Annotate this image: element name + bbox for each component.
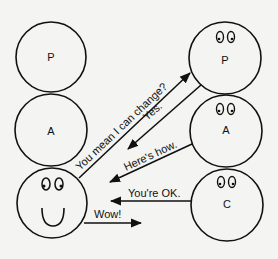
eyes-icon: [218, 177, 236, 188]
transaction-youre-ok: You're OK.: [111, 187, 192, 201]
ta-diagram: P A P A: [0, 0, 278, 259]
left-parent-label: P: [47, 51, 54, 63]
eyes-icon: [42, 178, 63, 190]
left-parent-circle: P: [16, 22, 86, 92]
smile-icon: [42, 208, 64, 226]
transaction-label: You're OK.: [128, 187, 180, 199]
right-adult-label: A: [222, 124, 230, 136]
left-adult-circle: A: [15, 94, 87, 166]
right-parent-circle: P: [189, 22, 261, 94]
right-parent-label: P: [221, 54, 228, 66]
transaction-wow: Wow!: [84, 208, 141, 223]
right-child-circle: C: [191, 169, 263, 241]
eyes-icon: [217, 104, 235, 115]
left-adult-label: A: [47, 125, 55, 137]
left-child-circle: [17, 168, 87, 238]
eyes-icon: [217, 32, 235, 43]
transaction-label: Here's how.: [122, 138, 179, 173]
right-child-label: C: [223, 198, 231, 210]
transaction-label: Wow!: [94, 208, 121, 220]
transaction-heres-how: Here's how.: [110, 138, 192, 182]
right-adult-circle: A: [190, 95, 262, 167]
